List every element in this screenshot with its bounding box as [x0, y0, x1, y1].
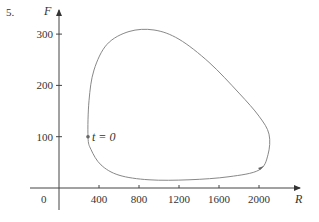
problem-number: 5.: [6, 6, 15, 18]
y-tick-label: 200: [37, 79, 54, 91]
y-axis-label: F: [43, 4, 52, 18]
origin-label: 0: [41, 193, 47, 205]
x-tick-label: 1200: [168, 193, 191, 205]
y-tick-label: 100: [37, 131, 54, 143]
direction-arrow-icon: [258, 166, 264, 170]
x-tick-label: 400: [91, 193, 108, 205]
x-tick-label: 800: [131, 193, 148, 205]
t0-annotation: t = 0: [92, 130, 115, 144]
phase-plot: 5. 4008001200160020001002003000RF t = 0: [0, 0, 319, 222]
x-tick-label: 1600: [208, 193, 231, 205]
trajectory-curve: [88, 29, 270, 180]
t0-point: [86, 135, 90, 139]
y-tick-label: 300: [37, 28, 54, 40]
x-axis-label: R: [294, 192, 303, 206]
x-tick-label: 2000: [248, 193, 271, 205]
